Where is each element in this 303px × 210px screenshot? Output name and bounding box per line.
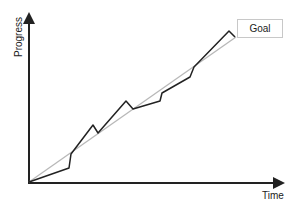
goal-label: Goal (249, 23, 270, 34)
x-axis-label: Time (262, 190, 284, 201)
y-axis-label: Progress (13, 17, 24, 57)
actual-progress-line (29, 31, 235, 182)
goal-label-box: Goal (237, 19, 283, 38)
